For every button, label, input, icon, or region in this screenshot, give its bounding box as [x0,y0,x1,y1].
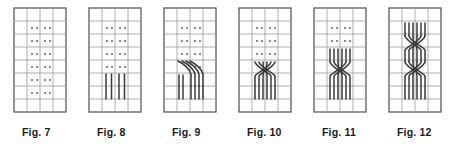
chart-svg-7 [8,0,83,124]
chart-svg-8 [83,0,158,124]
chart-grid-7 [8,0,83,124]
chart-grid-12 [383,0,458,124]
chart-grid-9 [158,0,233,124]
chart-grid-8 [83,0,158,124]
chart-svg-12 [383,0,458,124]
figure-caption-9: Fig. 9 [172,126,201,138]
figure-caption-8: Fig. 8 [97,126,126,138]
chart-grid-11 [308,0,383,124]
chart-svg-11 [308,0,383,124]
figure-panel-11: Fig. 11 [308,0,383,146]
figure-strip: Fig. 7 [0,0,458,146]
figure-panel-7: Fig. 7 [8,0,83,146]
figure-panel-8: Fig. 8 [83,0,158,146]
figure-caption-7: Fig. 7 [22,126,51,138]
figure-panel-12: Fig. 12 [383,0,458,146]
figure-caption-11: Fig. 11 [322,126,356,138]
chart-svg-9 [158,0,233,124]
figure-panel-9: Fig. 9 [158,0,233,146]
chart-svg-10 [233,0,308,124]
chart-grid-10 [233,0,308,124]
figure-caption-10: Fig. 10 [247,126,282,138]
figure-caption-12: Fig. 12 [397,126,432,138]
figure-panel-10: Fig. 10 [233,0,308,146]
